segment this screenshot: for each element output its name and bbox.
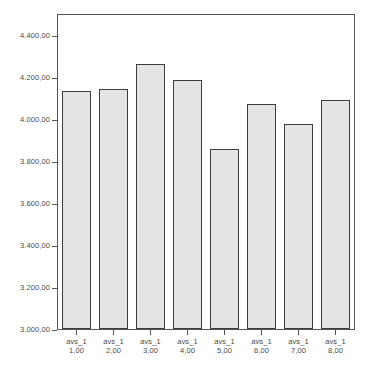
bar[interactable] (99, 89, 129, 329)
x-axis-tick-label-secondary: 5,00 (205, 346, 245, 355)
x-axis-tick: avs_11,00 (57, 330, 97, 355)
bar[interactable] (62, 91, 92, 329)
x-axis-tick: avs_15,00 (205, 330, 245, 355)
bar-slot (247, 15, 277, 329)
x-axis-tick-mark (113, 330, 114, 335)
y-axis-tick-label: 4.400,00 (20, 32, 50, 40)
x-axis-tick-label-secondary: 3,00 (131, 346, 171, 355)
x-axis-tick: avs_12,00 (94, 330, 134, 355)
bar-slot (284, 15, 314, 329)
bars-layer (58, 15, 354, 329)
x-axis-tick-label-primary: avs_1 (94, 337, 134, 346)
x-axis-tick-label-primary: avs_1 (316, 337, 356, 346)
x-axis-tick: avs_17,00 (279, 330, 319, 355)
y-axis-tick-label: 3.600,00 (20, 200, 50, 208)
x-axis-tick: avs_13,00 (131, 330, 171, 355)
x-axis-tick: avs_14,00 (168, 330, 208, 355)
x-axis-tick-label-secondary: 7,00 (279, 346, 319, 355)
bar[interactable] (247, 104, 277, 329)
bar-slot (173, 15, 203, 329)
bar-slot (210, 15, 240, 329)
x-axis-tick-mark (150, 330, 151, 335)
y-axis-tick-label: 3.400,00 (20, 242, 50, 250)
x-axis-tick-label-secondary: 6,00 (242, 346, 282, 355)
bar[interactable] (136, 64, 166, 329)
x-axis-tick-mark (261, 330, 262, 335)
x-axis-tick-mark (224, 330, 225, 335)
bar-slot (99, 15, 129, 329)
x-axis-tick-label-secondary: 1,00 (57, 346, 97, 355)
bar-slot (62, 15, 92, 329)
x-axis-tick-label-primary: avs_1 (205, 337, 245, 346)
x-axis: avs_11,00avs_12,00avs_13,00avs_14,00avs_… (58, 330, 354, 373)
x-axis-tick-label-secondary: 2,00 (94, 346, 134, 355)
x-axis-tick-mark (298, 330, 299, 335)
x-axis-tick-mark (76, 330, 77, 335)
x-axis-tick-mark (335, 330, 336, 335)
y-axis-tick-label: 4.000,00 (20, 116, 50, 124)
x-axis-tick-mark (187, 330, 188, 335)
x-axis-tick-label-primary: avs_1 (168, 337, 208, 346)
x-axis-tick-label-secondary: 8,00 (316, 346, 356, 355)
bar-slot (321, 15, 351, 329)
bar-chart: 3.000,003.200,003.400,003.600,003.800,00… (0, 0, 369, 373)
bar-slot (136, 15, 166, 329)
x-axis-tick-label-primary: avs_1 (279, 337, 319, 346)
y-axis-tick-label: 4.200,00 (20, 74, 50, 82)
bar[interactable] (284, 124, 314, 329)
y-axis-tick-label: 3.800,00 (20, 158, 50, 166)
bar[interactable] (321, 100, 351, 329)
y-axis: 3.000,003.200,003.400,003.600,003.800,00… (0, 0, 57, 373)
y-axis-tick-label: 3.000,00 (20, 326, 50, 334)
x-axis-tick-label-primary: avs_1 (242, 337, 282, 346)
x-axis-tick-label-primary: avs_1 (131, 337, 171, 346)
x-axis-tick-label-primary: avs_1 (57, 337, 97, 346)
x-axis-tick-label-secondary: 4,00 (168, 346, 208, 355)
bar[interactable] (210, 149, 240, 329)
bar[interactable] (173, 80, 203, 329)
x-axis-tick: avs_16,00 (242, 330, 282, 355)
y-axis-tick-label: 3.200,00 (20, 284, 50, 292)
x-axis-tick: avs_18,00 (316, 330, 356, 355)
